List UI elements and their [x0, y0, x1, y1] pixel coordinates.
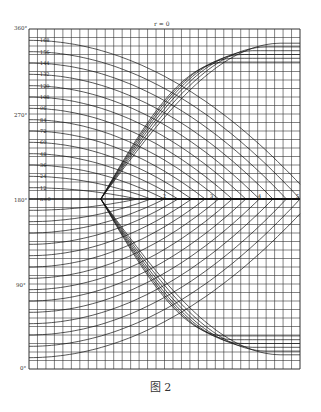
svg-text:4: 4	[258, 193, 261, 199]
svg-text:12: 12	[40, 185, 46, 191]
svg-text:156: 156	[40, 49, 50, 55]
svg-text:36: 36	[40, 162, 46, 168]
y-tick-0: 0°	[20, 365, 26, 371]
svg-text:3: 3	[210, 193, 213, 199]
svg-text:n=0: n=0	[40, 196, 51, 202]
chart-plot: 1681561441321201089684726048362412n=0234…	[0, 0, 321, 412]
svg-text:108: 108	[40, 94, 50, 100]
svg-text:168: 168	[40, 37, 50, 43]
chart-title: r = 0	[154, 20, 170, 27]
y-tick-180: 180°	[14, 197, 27, 203]
svg-text:144: 144	[40, 60, 50, 66]
svg-text:60: 60	[40, 139, 46, 145]
svg-text:5: 5	[296, 193, 299, 199]
svg-text:96: 96	[40, 105, 46, 111]
svg-text:2: 2	[163, 193, 166, 199]
svg-text:24: 24	[40, 173, 46, 179]
svg-text:72: 72	[40, 128, 46, 134]
svg-text:48: 48	[40, 151, 46, 157]
svg-text:84: 84	[40, 117, 46, 123]
figure-caption: 图 2	[0, 378, 321, 394]
y-tick-90: 90°	[16, 282, 26, 288]
y-tick-270: 270°	[14, 112, 27, 118]
svg-text:132: 132	[40, 71, 50, 77]
y-tick-360: 360°	[14, 25, 27, 31]
svg-text:120: 120	[40, 83, 50, 89]
